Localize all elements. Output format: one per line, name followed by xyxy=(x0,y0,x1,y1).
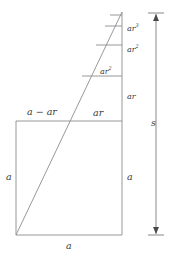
label-step-1: ar xyxy=(127,93,136,101)
square-outline xyxy=(16,121,122,235)
label-square-bottom: a xyxy=(66,241,72,251)
label-square-left-side: a xyxy=(6,172,12,182)
label-step-4: ar3 xyxy=(127,25,139,33)
label-top-right-segment: ar xyxy=(93,108,103,118)
diagram-canvas xyxy=(0,0,169,259)
arrowhead-down xyxy=(153,227,159,234)
label-total-s: s xyxy=(151,118,156,128)
label-square-right-side: a xyxy=(127,172,133,182)
geometric-series-diagram: ar3 ar2 ar2 ar a − ar ar a a a s xyxy=(0,0,169,259)
label-top-left-segment: a − ar xyxy=(27,107,57,117)
label-step-2: ar2 xyxy=(100,68,112,76)
label-step-3: ar2 xyxy=(127,46,139,54)
arrowhead-up xyxy=(153,14,159,21)
